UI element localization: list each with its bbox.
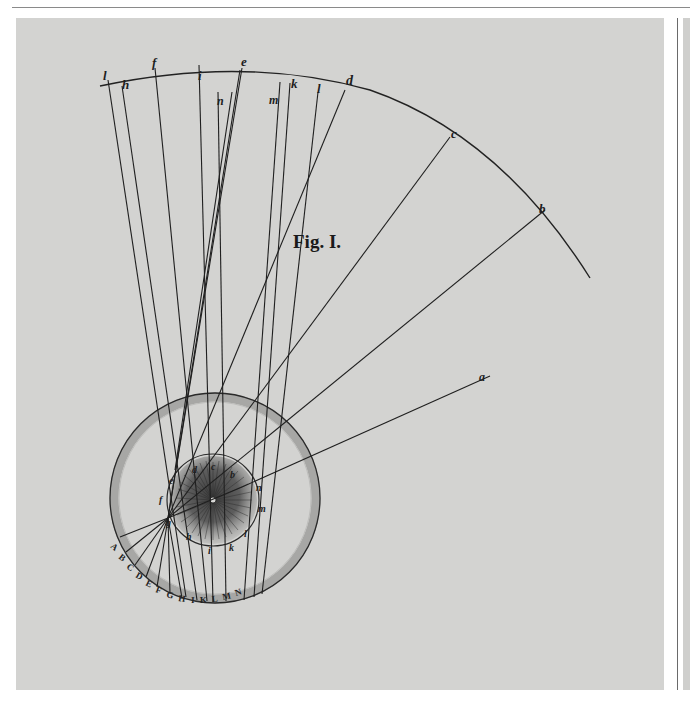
svg-text:B: B (117, 552, 128, 564)
label-b: b (539, 201, 546, 216)
label-d: d (346, 73, 354, 88)
svg-text:G: G (166, 589, 175, 600)
lens-label-l: l (244, 528, 247, 539)
label-k: k (291, 76, 298, 91)
eye-optics-diagram: l h f i e k l d c b n m a Fig. I. e d c … (0, 0, 690, 702)
lens-label-k: k (229, 542, 234, 553)
label-e: e (241, 54, 247, 69)
label-l-left: l (103, 68, 107, 83)
svg-text:M: M (221, 590, 232, 602)
label-m: m (269, 93, 278, 107)
label-i: i (198, 68, 202, 83)
lens-label-n: n (256, 482, 262, 493)
lens-label-e: e (169, 475, 174, 486)
svg-text:L: L (211, 593, 218, 604)
label-c: c (451, 126, 457, 141)
label-l-right: l (317, 81, 321, 96)
svg-text:H: H (178, 593, 186, 604)
figure-caption: Fig. I. (293, 231, 341, 252)
svg-text:K: K (200, 595, 207, 605)
svg-text:F: F (154, 584, 163, 595)
label-f: f (152, 55, 158, 70)
svg-text:A: A (109, 541, 121, 553)
lens-label-c: c (211, 461, 216, 472)
light-rays (108, 65, 545, 602)
lens-label-m: m (258, 503, 266, 514)
svg-text:D: D (134, 570, 145, 582)
lens-label-f: f (159, 494, 164, 505)
lens-label-i: i (208, 545, 211, 556)
svg-text:C: C (125, 561, 136, 573)
label-a: a (479, 370, 485, 384)
object-arc (100, 71, 590, 278)
svg-text:E: E (144, 578, 154, 590)
lens-label-b: b (230, 469, 235, 480)
lens-label-g: g (165, 517, 171, 528)
label-n: n (217, 94, 224, 108)
label-h: h (122, 77, 129, 92)
lens-label-h: h (186, 531, 192, 542)
